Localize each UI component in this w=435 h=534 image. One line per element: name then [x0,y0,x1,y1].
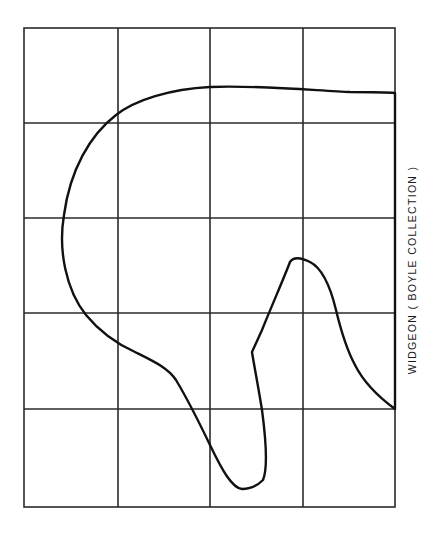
hull-profile-diagram [0,0,435,534]
grid [24,28,395,507]
widgeon-outline-curve [62,87,395,489]
figure-caption: WIDGEON ( BOYLE COLLECTION ) [406,166,418,375]
